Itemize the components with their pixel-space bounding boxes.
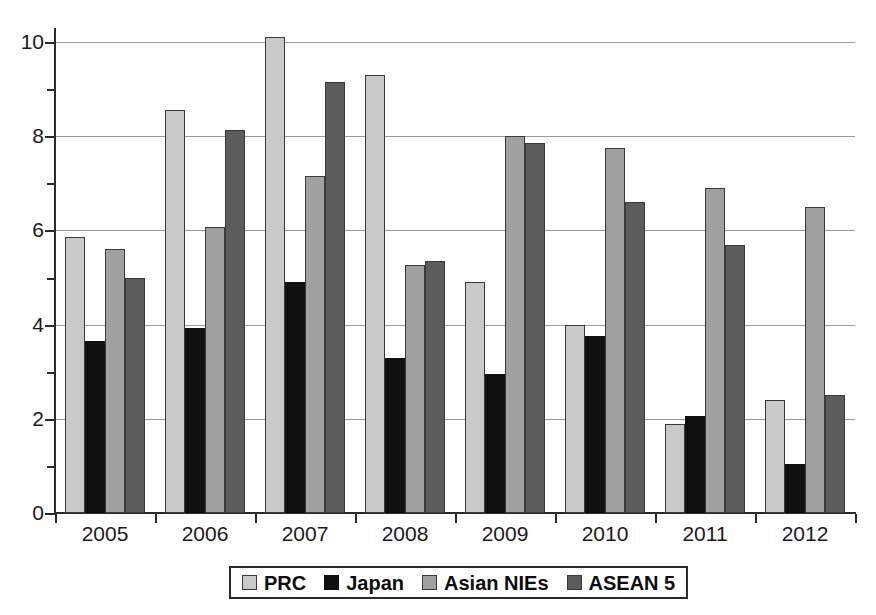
bar-asian-nies-2009 xyxy=(505,136,525,513)
bar-asean-5-2012 xyxy=(825,395,845,513)
legend-label: Japan xyxy=(346,573,404,593)
bar-prc-2010 xyxy=(565,325,585,513)
bar-asian-nies-2011 xyxy=(705,188,725,513)
x-axis-label-2011: 2011 xyxy=(655,522,755,546)
bar-asian-nies-2007 xyxy=(305,176,325,513)
bar-asian-nies-2012 xyxy=(805,207,825,513)
bar-prc-2012 xyxy=(765,400,785,513)
x-axis-label-2006: 2006 xyxy=(155,522,255,546)
y-axis-tick-label: 8 xyxy=(6,125,44,146)
bar-asian-nies-2006 xyxy=(205,227,225,513)
bar-japan-2005 xyxy=(85,341,105,513)
legend-swatch-icon xyxy=(242,575,257,590)
bar-asian-nies-2010 xyxy=(605,148,625,513)
bar-chart: 0246810 PRCJapanAsian NIEsASEAN 5 200520… xyxy=(0,0,876,615)
x-tick xyxy=(855,514,857,523)
x-axis-label-2005: 2005 xyxy=(55,522,155,546)
legend-swatch-icon xyxy=(324,575,339,590)
legend-swatch-icon xyxy=(567,575,582,590)
y-minor-tick-3 xyxy=(47,372,56,374)
bar-asean-5-2008 xyxy=(425,261,445,513)
x-axis-label-2010: 2010 xyxy=(555,522,655,546)
y-minor-tick-7 xyxy=(47,183,56,185)
y-minor-tick-5 xyxy=(47,278,56,280)
bar-japan-2008 xyxy=(385,358,405,513)
x-axis-label-2012: 2012 xyxy=(755,522,855,546)
bar-asean-5-2009 xyxy=(525,143,545,513)
bar-japan-2011 xyxy=(685,416,705,513)
legend-item-japan[interactable]: Japan xyxy=(324,573,404,593)
x-axis-label-2008: 2008 xyxy=(355,522,455,546)
bar-japan-2006 xyxy=(185,328,205,513)
y-axis-tick-label: 0 xyxy=(6,502,44,523)
bar-asean-5-2011 xyxy=(725,245,745,513)
y-tick-10 xyxy=(45,42,56,44)
y-axis-tick-label: 6 xyxy=(6,219,44,240)
chart-legend: PRCJapanAsian NIEsASEAN 5 xyxy=(229,566,688,599)
bar-japan-2009 xyxy=(485,374,505,513)
bar-asian-nies-2005 xyxy=(105,249,125,513)
bar-asean-5-2005 xyxy=(125,278,145,514)
bar-prc-2011 xyxy=(665,424,685,513)
legend-item-asian-nies[interactable]: Asian NIEs xyxy=(422,573,548,593)
bar-prc-2006 xyxy=(165,110,185,513)
y-minor-tick-9 xyxy=(47,89,56,91)
gridline-10 xyxy=(55,42,855,43)
y-minor-tick-1 xyxy=(47,466,56,468)
x-tick-origin xyxy=(55,514,57,523)
bar-asian-nies-2008 xyxy=(405,265,425,513)
y-tick-4 xyxy=(45,325,56,327)
bar-japan-2012 xyxy=(785,464,805,513)
bar-asean-5-2006 xyxy=(225,130,245,513)
bar-asean-5-2007 xyxy=(325,82,345,513)
bar-japan-2010 xyxy=(585,336,605,513)
legend-label: PRC xyxy=(264,573,306,593)
legend-label: ASEAN 5 xyxy=(589,573,676,593)
plot-area xyxy=(55,42,855,513)
y-tick-2 xyxy=(45,419,56,421)
bar-asean-5-2010 xyxy=(625,202,645,513)
bar-prc-2005 xyxy=(65,237,85,513)
legend-item-asean-5[interactable]: ASEAN 5 xyxy=(567,573,676,593)
legend-label: Asian NIEs xyxy=(444,573,548,593)
y-axis-tick-label: 2 xyxy=(6,408,44,429)
bar-prc-2007 xyxy=(265,37,285,513)
x-axis-label-2007: 2007 xyxy=(255,522,355,546)
legend-item-prc[interactable]: PRC xyxy=(242,573,306,593)
bar-prc-2008 xyxy=(365,75,385,513)
y-axis-tick-label: 10 xyxy=(6,31,44,52)
bar-japan-2007 xyxy=(285,282,305,513)
x-axis-label-2009: 2009 xyxy=(455,522,555,546)
legend-swatch-icon xyxy=(422,575,437,590)
y-axis-tick-label: 4 xyxy=(6,314,44,335)
bar-prc-2009 xyxy=(465,282,485,513)
y-tick-8 xyxy=(45,136,56,138)
y-tick-6 xyxy=(45,230,56,232)
